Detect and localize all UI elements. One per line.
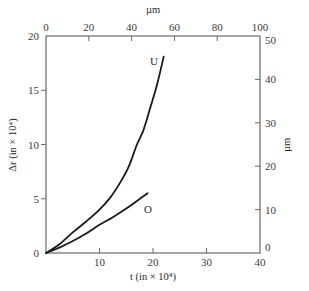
y-axis-label: Δr (in × 10⁴) <box>7 118 19 172</box>
y-tick-label: 20 <box>28 30 40 42</box>
x-axis-label: t (in × 10⁴) <box>130 271 177 283</box>
curve-label-o: O <box>144 203 152 215</box>
y-tick-label: 0 <box>34 247 40 259</box>
y2-tick-label: 30 <box>265 117 277 129</box>
x-tick-label: 30 <box>201 256 213 268</box>
right-axis-label: µm <box>281 138 292 152</box>
curve-label-u: U <box>150 55 158 67</box>
y-tick-label: 10 <box>28 139 40 151</box>
x2-tick-label: 60 <box>169 21 181 33</box>
y2-tick-label: 0 <box>265 241 271 253</box>
curve-u <box>46 57 164 253</box>
x2-tick-label: 0 <box>43 21 49 33</box>
x2-tick-label: 40 <box>126 21 138 33</box>
y2-tick-label: 20 <box>265 160 277 172</box>
ticks <box>41 36 260 253</box>
x-tick-label: 40 <box>255 256 267 268</box>
x2-tick-label: 20 <box>83 21 95 33</box>
chart: 102030400510152002040608010001020304050 … <box>0 0 309 291</box>
x2-tick-label: 80 <box>212 21 224 33</box>
plot-frame <box>46 36 260 253</box>
y2-tick-label: 10 <box>265 204 277 216</box>
x-tick-label: 10 <box>94 256 106 268</box>
curve-o <box>46 193 148 253</box>
y2-tick-label: 50 <box>265 34 277 46</box>
x-tick-label: 20 <box>148 256 160 268</box>
x2-tick-label: 100 <box>252 21 269 33</box>
curves <box>46 57 164 253</box>
top-axis-label: µm <box>146 4 160 15</box>
y2-tick-label: 40 <box>265 73 277 85</box>
y-tick-label: 5 <box>34 193 40 205</box>
y-tick-label: 15 <box>28 84 40 96</box>
